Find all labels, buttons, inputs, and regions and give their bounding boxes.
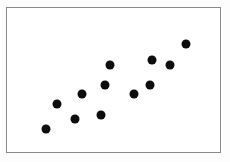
data-point [165, 61, 174, 70]
scatter-plot-figure [0, 0, 230, 162]
data-point [147, 56, 156, 65]
plot-frame-border [6, 7, 221, 153]
data-point [97, 110, 106, 119]
data-point [53, 99, 62, 108]
data-point [70, 115, 79, 124]
data-point [145, 80, 154, 89]
data-point [78, 89, 87, 98]
data-point [129, 89, 138, 98]
plot-area [7, 8, 220, 152]
data-point [106, 61, 115, 70]
data-point [41, 125, 50, 134]
data-point [182, 39, 191, 48]
data-point [100, 80, 109, 89]
